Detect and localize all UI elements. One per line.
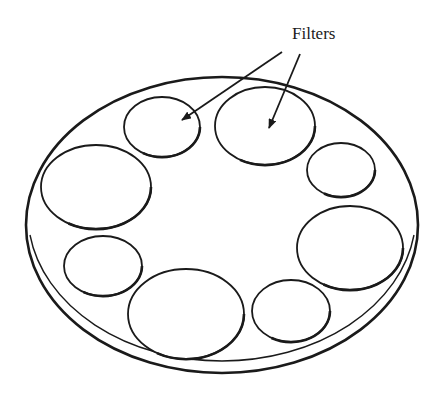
filters: [41, 87, 403, 359]
diagram-drawing: [0, 0, 439, 395]
filters-label: Filters: [292, 24, 335, 44]
filter-plate-diagram: Filters: [0, 0, 439, 395]
